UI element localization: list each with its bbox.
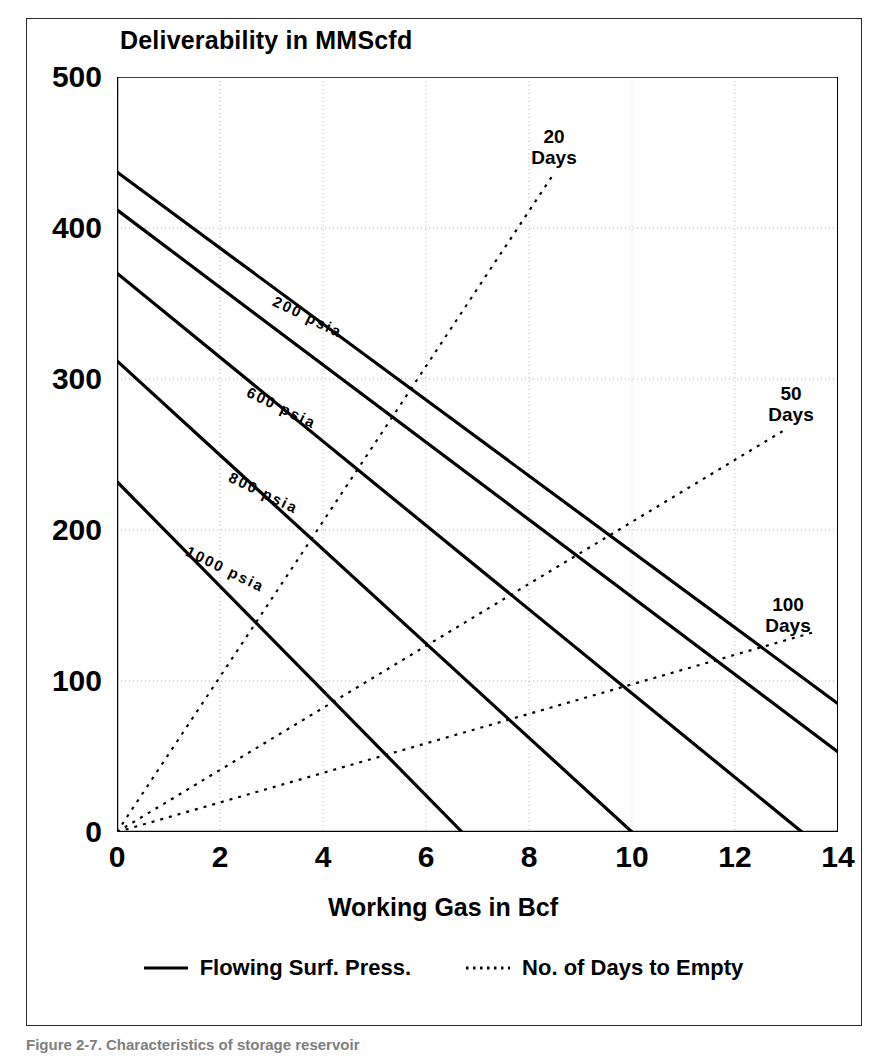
days-label-50: 50 Days — [768, 383, 813, 426]
figure-container: Deliverability in MMScfd 500 400 300 200… — [0, 0, 886, 1060]
days-label-100: 100 Days — [765, 594, 810, 637]
x-axis-tick-labels: 0 2 4 6 8 10 12 14 — [117, 842, 838, 886]
solid-line-icon — [143, 961, 189, 975]
y-tick-400: 400 — [52, 213, 102, 243]
x-tick-8: 8 — [521, 842, 538, 872]
gridlines — [117, 77, 838, 832]
y-axis-tick-labels: 500 400 300 200 100 0 — [18, 77, 102, 832]
y-tick-300: 300 — [52, 364, 102, 394]
axis-ticks — [117, 77, 838, 832]
figure-caption: Figure 2-7. Characteristics of storage r… — [26, 1036, 726, 1053]
days-100-value: 100 — [765, 594, 810, 615]
chart-title: Deliverability in MMScfd — [120, 26, 412, 55]
legend-item-dotted: No. of Days to Empty — [465, 955, 743, 981]
legend: Flowing Surf. Press. No. of Days to Empt… — [0, 955, 886, 981]
series-lines — [117, 172, 838, 832]
legend-item-solid: Flowing Surf. Press. — [143, 955, 411, 981]
x-tick-12: 12 — [718, 842, 751, 872]
y-tick-100: 100 — [52, 666, 102, 696]
x-axis-title: Working Gas in Bcf — [0, 893, 886, 922]
x-tick-6: 6 — [418, 842, 435, 872]
x-tick-0: 0 — [109, 842, 126, 872]
days-20-value: 20 — [531, 126, 576, 147]
days-50-value: 50 — [768, 383, 813, 404]
plot-area: 200 psia 600 psia 800 psia 1000 psia 20 … — [117, 77, 838, 832]
days-label-20: 20 Days — [531, 126, 576, 169]
y-tick-500: 500 — [52, 62, 102, 92]
days-20-unit: Days — [531, 147, 576, 168]
legend-label-flowing-surf-press: Flowing Surf. Press. — [200, 955, 411, 981]
dotted-line-icon — [465, 961, 511, 975]
y-tick-200: 200 — [52, 515, 102, 545]
x-tick-10: 10 — [615, 842, 648, 872]
days-100-unit: Days — [765, 615, 810, 636]
plot-svg — [117, 77, 838, 832]
days-50-unit: Days — [768, 404, 813, 425]
x-tick-2: 2 — [212, 842, 229, 872]
x-tick-14: 14 — [821, 842, 854, 872]
legend-label-days-to-empty: No. of Days to Empty — [522, 955, 743, 981]
axis-lines — [117, 77, 838, 832]
y-tick-0: 0 — [85, 817, 102, 847]
x-tick-4: 4 — [315, 842, 332, 872]
